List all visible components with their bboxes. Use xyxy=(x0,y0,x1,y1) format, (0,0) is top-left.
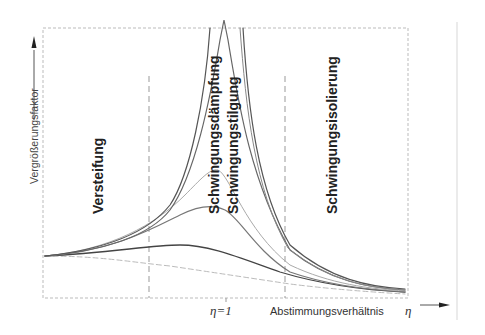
y-axis-label: Vergrößerungsfaktor xyxy=(28,88,40,184)
curve-d02 xyxy=(45,207,405,292)
resonance-diagram xyxy=(0,0,485,335)
y-arrow-icon xyxy=(32,36,37,48)
region-label-isolation: Schwingungsisolierung xyxy=(324,56,340,214)
curve-d0-right-2 xyxy=(240,28,405,290)
x-arrow-icon xyxy=(439,303,450,308)
region-label-absorption: Schwingungstilgung xyxy=(225,76,241,214)
eta-one-tick-label: η=1 xyxy=(210,303,232,319)
region-label-stiffening: Versteifung xyxy=(90,138,106,214)
eta-symbol: η xyxy=(405,303,411,319)
curve-d0-left xyxy=(45,28,210,256)
x-axis-label: Abstimmungsverhältnis xyxy=(270,305,384,317)
region-label-damping: Schwingungsdämpfung xyxy=(206,55,222,214)
curve-d07 xyxy=(45,256,405,294)
